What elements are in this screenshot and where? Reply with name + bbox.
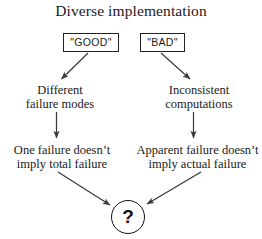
node-good-label: "GOOD" [70,37,111,49]
connector-bad-to-inconsistent [161,53,190,79]
connector-onefail-to-question [58,172,110,205]
node-inconsistent-computations-line1: Inconsistent [140,83,258,97]
node-one-failure-line2: imply total failure [0,157,124,171]
node-apparent-failure: Apparent failure doesn’t imply actual fa… [133,143,262,171]
connector-apparent-to-question [147,172,201,204]
diagram-canvas: Diverse implementation "GOOD" "BAD" Diff… [0,0,262,239]
question-mark-icon: ? [122,207,134,226]
node-different-failure-modes: Different failure modes [4,83,116,111]
node-inconsistent-computations-line2: computations [140,97,258,111]
node-different-failure-modes-line1: Different [4,83,116,97]
node-good-box[interactable]: "GOOD" [63,33,119,52]
node-apparent-failure-line1: Apparent failure doesn’t [133,143,262,157]
node-one-failure-line1: One failure doesn’t [0,143,124,157]
page-title: Diverse implementation [0,2,262,19]
node-apparent-failure-line2: imply actual failure [133,157,262,171]
node-bad-label: "BAD" [147,37,178,49]
node-bad-box[interactable]: "BAD" [140,33,185,52]
node-inconsistent-computations: Inconsistent computations [140,83,258,111]
node-different-failure-modes-line2: failure modes [4,97,116,111]
connector-good-to-different [62,53,89,79]
node-question-circle[interactable]: ? [111,200,145,234]
node-one-failure: One failure doesn’t imply total failure [0,143,124,171]
